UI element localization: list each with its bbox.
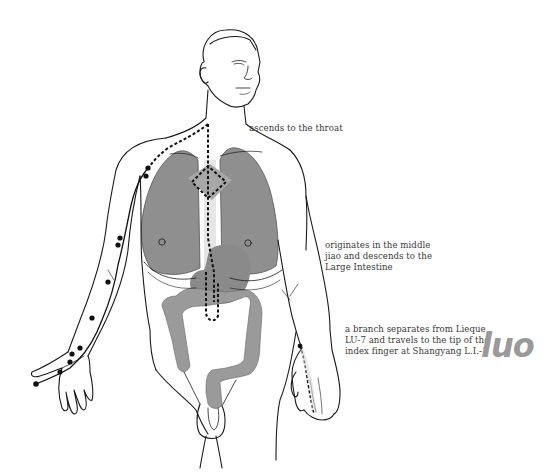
annotation-origin: originates in the middle jiao and descen…: [325, 240, 432, 273]
annotation-line: a branch separates from Lieque: [345, 324, 489, 335]
annotation-line: Large Intestine: [325, 262, 432, 273]
annotation-line: jiao and descends to the: [325, 251, 432, 262]
lung-channel-diagram: ascends to the throat originates in the …: [0, 0, 558, 472]
annotation-line: LU-7 and travels to the tip of the: [345, 335, 489, 346]
annotation-line: originates in the middle: [325, 240, 432, 251]
channel-arm-path: [33, 165, 150, 386]
large-intestine: [162, 288, 262, 409]
annotation-throat: ascends to the throat: [249, 123, 343, 134]
anatomical-figure: [0, 0, 558, 472]
luo-brush-mark: luo: [481, 325, 534, 365]
annotation-line: ascends to the throat: [249, 123, 343, 134]
annotation-branch: a branch separates from Lieque LU-7 and …: [345, 324, 489, 357]
annotation-line: index finger at Shangyang L.I.-1: [345, 346, 489, 357]
luo-branch-path: [298, 344, 314, 414]
